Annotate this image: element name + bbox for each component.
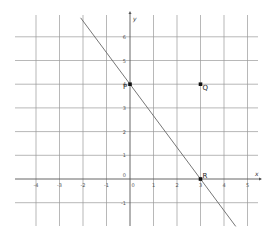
point-q-label: Q bbox=[203, 84, 209, 92]
line-pr bbox=[81, 18, 236, 227]
point-p-marker bbox=[128, 82, 132, 86]
y-tick-label: 3 bbox=[123, 105, 126, 111]
y-axis-arrow-icon bbox=[129, 11, 132, 14]
axes: xy bbox=[15, 11, 262, 226]
x-tick-label: 1 bbox=[152, 182, 155, 188]
y-tick-label: 6 bbox=[123, 34, 126, 40]
coordinate-plane: xy -4-3-2-1012345-10123456 PQR bbox=[0, 0, 272, 241]
tick-labels: -4-3-2-1012345-10123456 bbox=[34, 34, 250, 206]
x-tick-label: 5 bbox=[246, 182, 249, 188]
x-tick-label: 3 bbox=[199, 182, 202, 188]
x-tick-label: -3 bbox=[57, 182, 62, 188]
x-tick-label: 0 bbox=[131, 182, 134, 188]
y-tick-label: 1 bbox=[123, 152, 126, 158]
x-axis-arrow-icon bbox=[259, 178, 262, 181]
x-axis-label: x bbox=[254, 170, 259, 177]
grid-lines bbox=[15, 15, 258, 226]
point-p-label: P bbox=[123, 83, 127, 91]
y-axis-label: y bbox=[132, 15, 137, 23]
x-tick-label: 4 bbox=[222, 182, 225, 188]
plotted-line bbox=[81, 18, 236, 227]
y-tick-label: -1 bbox=[121, 200, 126, 206]
y-tick-label: 0 bbox=[123, 172, 126, 178]
point-r-label: R bbox=[203, 172, 208, 180]
x-tick-label: -4 bbox=[34, 182, 39, 188]
x-tick-label: 2 bbox=[175, 182, 178, 188]
y-tick-label: 2 bbox=[123, 129, 126, 135]
y-tick-label: 5 bbox=[123, 58, 126, 64]
x-tick-label: -1 bbox=[104, 182, 109, 188]
x-tick-label: -2 bbox=[81, 182, 86, 188]
